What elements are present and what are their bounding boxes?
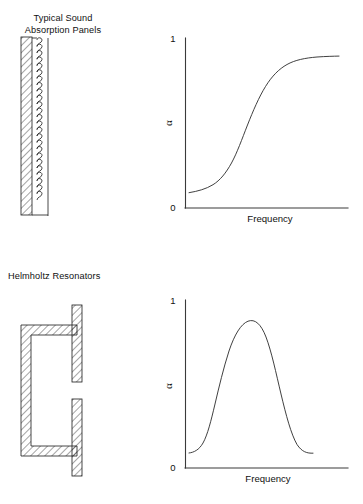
panel-helmholtz: Helmholtz Resonators [0,252,363,504]
y-tick-top: 1 [170,33,175,44]
panel-absorption: Typical Sound Absorption Panels [0,0,363,252]
x-axis-label: Frequency [247,213,293,224]
chart-axes [185,300,348,468]
absorption-data-curve [189,56,339,193]
caption-helmholtz-resonators: Helmholtz Resonators [8,270,228,282]
y-axis-label: α [162,383,174,389]
chart-axes [185,38,348,208]
x-axis-label: Frequency [245,473,291,484]
helmholtz-data-curve [189,321,313,454]
cavity-c-shape [21,325,77,456]
helmholtz-frequency-chart: 1 0 α Frequency [160,286,355,486]
figure-root: Typical Sound Absorption Panels [0,0,363,504]
facing-panel-line [32,38,48,216]
absorption-panel-diagram [18,34,88,220]
wavy-absorber-coil [37,38,42,200]
neck-lower-wall [72,399,82,476]
y-tick-bottom: 0 [170,462,175,473]
helmholtz-resonator-diagram [8,294,98,484]
y-tick-bottom: 0 [170,202,175,213]
absorption-frequency-chart: 1 0 α Frequency [160,26,355,226]
hatched-wall-slab [21,37,32,215]
neck-upper-wall [72,305,82,382]
y-axis-label: α [162,120,174,126]
y-tick-top: 1 [170,295,175,306]
